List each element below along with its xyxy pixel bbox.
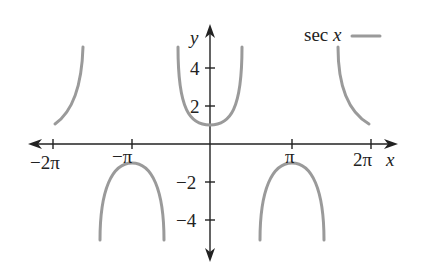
y-axis bbox=[205, 24, 215, 262]
branch-right bbox=[338, 47, 369, 124]
branch-neg-right bbox=[260, 163, 324, 240]
y-tick-label-2: 2 bbox=[190, 97, 200, 116]
x-tick-label-pi: π bbox=[285, 147, 295, 166]
branch-neg-left bbox=[100, 163, 164, 240]
chart-canvas bbox=[0, 0, 423, 265]
x-axis bbox=[28, 139, 398, 149]
y-tick-label-neg-2: −2 bbox=[176, 173, 196, 192]
legend: sec x bbox=[304, 25, 341, 44]
sec-x-curve bbox=[55, 36, 380, 240]
x-tick-label-neg-2pi: −2π bbox=[30, 153, 60, 172]
x-tick-label-neg-pi: −π bbox=[112, 147, 132, 166]
legend-x: x bbox=[333, 24, 341, 45]
branch-left bbox=[55, 47, 83, 124]
y-tick-label-neg-4: −4 bbox=[176, 211, 196, 230]
y-tick-label-4: 4 bbox=[190, 59, 200, 78]
y-axis-label: y bbox=[190, 28, 198, 47]
x-axis-label: x bbox=[386, 150, 394, 169]
x-tick-label-2pi: 2π bbox=[353, 150, 372, 169]
legend-sec: sec bbox=[304, 24, 333, 45]
